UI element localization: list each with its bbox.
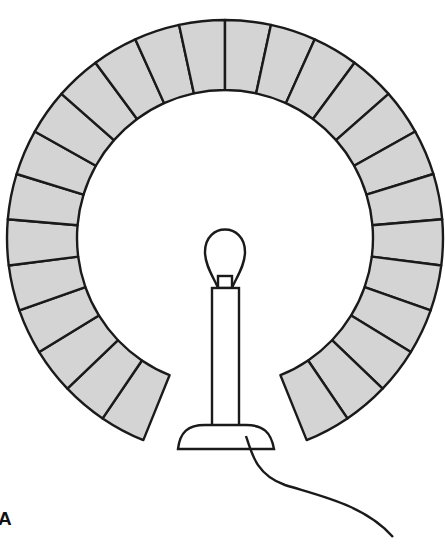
power-cord	[246, 436, 393, 537]
figure-label: A	[0, 508, 12, 530]
lamp-base	[178, 425, 274, 449]
diagram-canvas	[0, 0, 445, 547]
bulb-socket	[218, 276, 232, 288]
brick-segment	[7, 219, 78, 265]
lamp-stand-column	[212, 288, 239, 426]
